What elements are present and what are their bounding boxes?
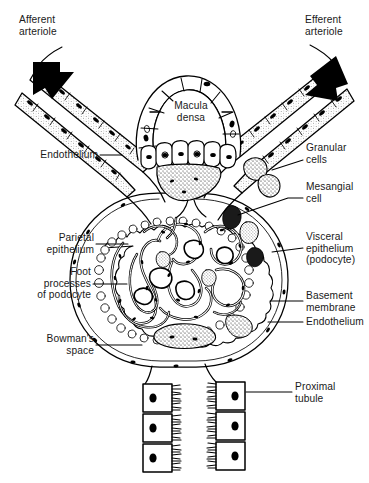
label-efferent-arteriole: Efferent arteriole bbox=[305, 14, 343, 37]
label-granular-cells: Granular cells bbox=[306, 142, 346, 165]
label-endothelium-right: Endothelium bbox=[306, 316, 364, 328]
proximal-tubule bbox=[143, 364, 245, 472]
label-foot-processes: Foot processes of podocyte bbox=[10, 266, 91, 301]
label-bowmans-space: Bowman's space bbox=[16, 333, 94, 356]
label-proximal-tubule: Proximal tubule bbox=[295, 381, 335, 404]
label-visceral-epithelium: Visceral epithelium (podocyte) bbox=[306, 231, 355, 266]
label-basement-membrane: Basement membrane bbox=[306, 290, 356, 313]
label-mesangial-cell: Mesangial cell bbox=[306, 181, 353, 204]
label-afferent-arteriole: Afferent arteriole bbox=[19, 14, 57, 37]
label-endothelium-top: Endothelium bbox=[18, 149, 98, 161]
label-macula-densa: Macula densa bbox=[160, 100, 222, 123]
renal-corpuscle-figure: Afferent arteriole Efferent arteriole Ma… bbox=[0, 0, 369, 483]
label-parietal-epithelium: Parietal epithelium bbox=[18, 232, 94, 255]
